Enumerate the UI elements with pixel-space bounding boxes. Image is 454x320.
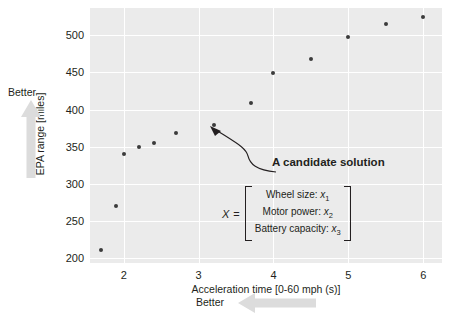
data-point	[152, 141, 156, 145]
data-point	[99, 248, 103, 252]
vector-symbol: X	[222, 208, 229, 220]
better-vertical-label: Better	[8, 86, 36, 98]
gridline-horizontal	[90, 258, 442, 259]
vector-equals-sign: =	[233, 208, 239, 220]
y-tick-label: 500	[44, 30, 84, 41]
gridline-horizontal	[90, 184, 442, 185]
right-bracket-icon	[344, 186, 351, 241]
y-tick-label: 400	[44, 105, 84, 116]
gridline-vertical	[124, 8, 125, 263]
data-point	[421, 15, 425, 19]
y-tick-label: 450	[44, 67, 84, 78]
better-horizontal-label: Better	[196, 296, 224, 308]
x-tick-label: 2	[109, 270, 139, 281]
annotation-leader-line	[178, 124, 288, 176]
x-tick-label: 5	[333, 270, 363, 281]
data-point	[346, 35, 350, 39]
data-point	[309, 57, 313, 61]
y-tick-label: 300	[44, 179, 84, 190]
y-tick-label: 250	[44, 216, 84, 227]
gridline-horizontal	[90, 72, 442, 73]
gridline-horizontal	[90, 110, 442, 111]
gridline-horizontal	[90, 35, 442, 36]
x-tick-label: 6	[408, 270, 438, 281]
scatter-chart-figure: 200250300350400450500 23456 Acceleration…	[0, 0, 454, 320]
vector-row: Motor power: x2	[255, 205, 341, 222]
data-point	[271, 71, 275, 75]
vector-rows: Wheel size: x1Motor power: x2Battery cap…	[252, 186, 344, 241]
candidate-solution-vector: X = Wheel size: x1Motor power: x2Battery…	[222, 186, 351, 241]
data-point	[122, 152, 126, 156]
better-left-arrow-icon	[238, 292, 316, 314]
y-tick-label: 200	[44, 253, 84, 264]
better-up-arrow-icon	[20, 100, 42, 178]
x-tick-label: 4	[258, 270, 288, 281]
data-point	[249, 101, 253, 105]
data-point	[384, 22, 388, 26]
y-tick-label: 350	[44, 142, 84, 153]
annotation-title: A candidate solution	[272, 156, 385, 168]
data-point	[114, 204, 118, 208]
gridline-vertical	[423, 8, 424, 263]
vector-row: Wheel size: x1	[255, 188, 341, 205]
x-tick-label: 3	[184, 270, 214, 281]
left-bracket-icon	[245, 186, 252, 241]
data-point	[137, 145, 141, 149]
vector-row: Battery capacity: x3	[255, 222, 341, 239]
